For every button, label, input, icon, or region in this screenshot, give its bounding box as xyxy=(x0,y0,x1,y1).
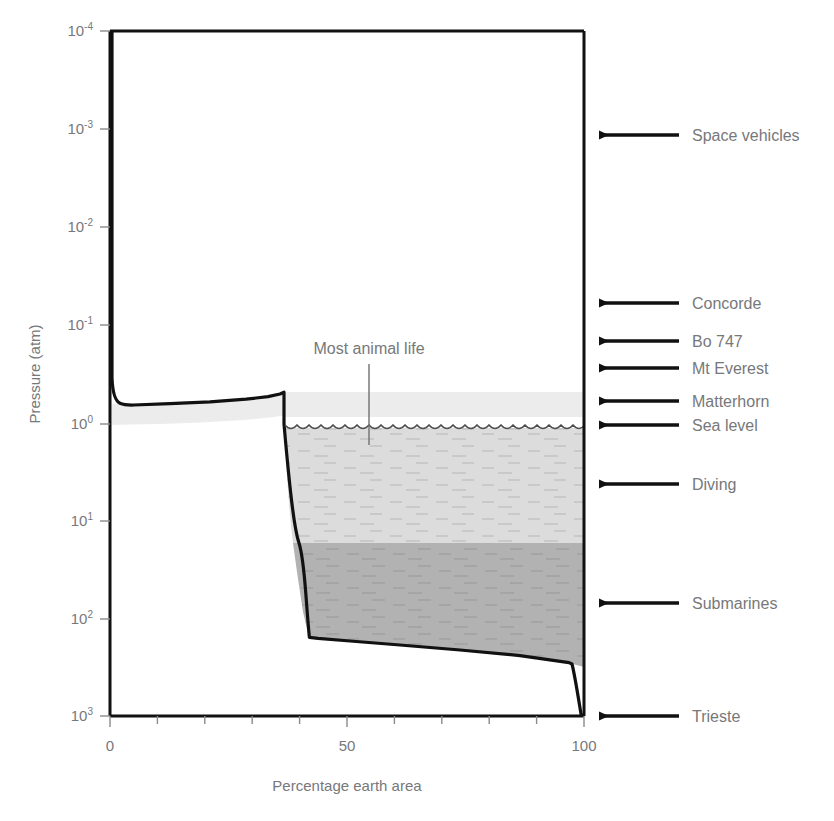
marker-label: Diving xyxy=(692,476,736,493)
y-axis-tick-labels: 10-4 10-3 10-2 10-1 100 101 102 xyxy=(67,21,93,724)
y-tick-label: 10-4 xyxy=(67,21,93,39)
atmosphere-band-ocean xyxy=(284,392,584,417)
x-axis-ticks xyxy=(110,716,584,727)
x-tick-label: 100 xyxy=(571,737,596,754)
y-tick-label: 102 xyxy=(71,609,94,627)
y-tick-label: 10-3 xyxy=(67,119,93,137)
marker-space-vehicles: Space vehicles xyxy=(599,127,800,144)
marker-label: Space vehicles xyxy=(692,127,800,144)
marker-diving: Diving xyxy=(599,476,736,493)
y-tick-label: 103 xyxy=(71,706,94,724)
marker-label: Bo 747 xyxy=(692,333,743,350)
marker-label: Concorde xyxy=(692,295,761,312)
x-axis: 0 50 100 Percentage earth area xyxy=(106,716,597,794)
x-axis-title: Percentage earth area xyxy=(272,777,422,794)
pressure-vs-earth-area-figure: 10-4 10-3 10-2 10-1 100 101 102 xyxy=(0,0,834,821)
sea-level-wave-line xyxy=(285,425,585,429)
marker-concorde: Concorde xyxy=(599,295,761,312)
marker-label: Submarines xyxy=(692,595,777,612)
y-axis: 10-4 10-3 10-2 10-1 100 101 102 xyxy=(26,21,110,724)
shaded-regions xyxy=(112,392,584,667)
y-tick-label: 101 xyxy=(71,511,94,529)
marker-label: Sea level xyxy=(692,417,758,434)
marker-bo-747: Bo 747 xyxy=(599,333,743,350)
marker-label: Trieste xyxy=(692,708,740,725)
chart-canvas: 10-4 10-3 10-2 10-1 100 101 102 xyxy=(0,0,834,821)
marker-trieste: Trieste xyxy=(599,708,740,725)
y-tick-label: 10-1 xyxy=(67,315,93,333)
most-animal-life-label: Most animal life xyxy=(313,340,424,357)
x-tick-label: 50 xyxy=(339,737,356,754)
y-axis-title: Pressure (atm) xyxy=(26,324,43,423)
marker-sea-level: Sea level xyxy=(599,417,758,434)
marker-label: Mt Everest xyxy=(692,360,769,377)
marker-matterhorn: Matterhorn xyxy=(599,393,769,410)
y-tick-label: 100 xyxy=(71,414,94,432)
y-tick-label: 10-2 xyxy=(67,217,93,235)
right-marker-group: Space vehicles Concorde Bo 747 Mt Everes… xyxy=(599,127,800,725)
x-axis-tick-labels: 0 50 100 xyxy=(106,737,597,754)
ocean-upper-texture xyxy=(284,428,584,543)
marker-submarines: Submarines xyxy=(599,595,777,612)
marker-label: Matterhorn xyxy=(692,393,769,410)
marker-mt-everest: Mt Everest xyxy=(599,360,769,377)
x-tick-label: 0 xyxy=(106,737,114,754)
